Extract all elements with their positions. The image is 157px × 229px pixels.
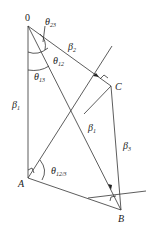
line-C-to-A-direction — [84, 86, 111, 114]
right-angle-marker-C — [100, 75, 108, 79]
geometry-diagram: 0 A B C β1 β1 β2 β3 θ23 θ12 θ13 θ12/3 — [0, 0, 157, 229]
right-angle-marker-A — [28, 168, 34, 173]
label-beta2: β2 — [67, 41, 76, 53]
arc-theta13 — [28, 66, 49, 71]
label-theta13: θ13 — [34, 71, 45, 83]
point-label-B: B — [118, 213, 124, 224]
line-CB — [111, 86, 121, 210]
label-theta12-3: θ12/3 — [51, 165, 67, 177]
arc-theta12 — [40, 34, 45, 50]
label-theta12: θ12 — [53, 55, 64, 67]
point-label-C: C — [115, 81, 122, 92]
label-beta1-diagonal: β1 — [87, 122, 96, 134]
label-beta1-left: β1 — [11, 99, 20, 111]
point-label-A: A — [17, 178, 25, 189]
label-theta23: θ23 — [45, 16, 56, 28]
point-label-O: 0 — [25, 12, 30, 23]
line-near-B — [88, 191, 146, 198]
arc-theta12-3 — [40, 160, 45, 180]
line-A-extended — [28, 46, 112, 178]
label-beta3: β3 — [122, 140, 131, 152]
